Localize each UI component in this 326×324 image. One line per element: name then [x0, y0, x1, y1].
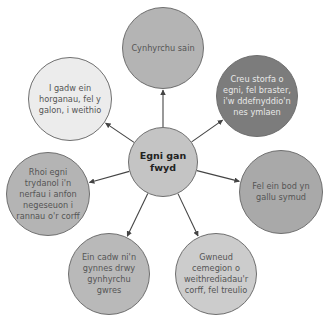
- node-top-left: I gadw ein horganau, fel y galon, i weit…: [28, 57, 112, 141]
- node-bottom-right: Gwneud cemegion o weithrediadau'r corff,…: [175, 233, 257, 315]
- arrow-to-left: [89, 171, 129, 182]
- node-top-label: Cynhyrchu sain: [131, 43, 194, 54]
- node-top: Cynhyrchu sain: [122, 7, 204, 89]
- center-node: Egni gan fwyd: [128, 127, 198, 197]
- node-top-right-label: Creu storfa o egni, fel braster, i'w dde…: [223, 74, 291, 118]
- arrow-to-bottom-right: [178, 194, 198, 236]
- arrow-to-bottom-left: [127, 194, 148, 237]
- node-left-label: Rhoi egni trydanol i'n nerfau i anfon ne…: [13, 167, 83, 222]
- node-bottom-left: Ein cadw ni'n gynnes drwy gynhyrchu gwre…: [68, 233, 150, 315]
- center-node-label: Egni gan fwyd: [140, 150, 187, 174]
- node-left: Rhoi egni trydanol i'n nerfau i anfon ne…: [6, 152, 90, 236]
- node-top-left-label: I gadw ein horganau, fel y galon, i weit…: [35, 83, 105, 116]
- node-bottom-right-label: Gwneud cemegion o weithrediadau'r corff,…: [182, 252, 250, 296]
- node-top-right: Creu storfa o egni, fel braster, i'w dde…: [216, 55, 298, 137]
- arrow-to-right: [197, 171, 239, 182]
- energy-from-food-diagram: Cynhyrchu sain Creu storfa o egni, fel b…: [0, 0, 326, 324]
- arrow-to-top-right: [192, 120, 223, 142]
- node-bottom-left-label: Ein cadw ni'n gynnes drwy gynhyrchu gwre…: [75, 252, 143, 296]
- arrow-to-top-left: [106, 123, 134, 142]
- node-right-label: Fel ein bod yn gallu symud: [246, 181, 316, 203]
- node-right: Fel ein bod yn gallu symud: [239, 150, 323, 234]
